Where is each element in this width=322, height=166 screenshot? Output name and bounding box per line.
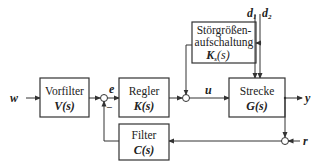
- stoergroessenaufschaltung-block: Störgrößen- aufschaltung Ks(s): [192, 22, 256, 63]
- tap-dot: [259, 42, 261, 44]
- control-summing-junction: [183, 95, 190, 102]
- stoer-tf-arg: (s): [217, 48, 230, 62]
- signal-d1-label: d1: [247, 6, 257, 21]
- signal-r-label: r: [303, 134, 308, 148]
- feedforward-line: [186, 45, 192, 95]
- regler-tf: K(s): [133, 99, 155, 113]
- vorfilter-label: Vorfilter: [45, 85, 84, 97]
- vorfilter-tf: V(s): [54, 99, 75, 113]
- filter-block: Filter C(s): [119, 124, 169, 160]
- signal-d2-label: d2: [262, 6, 272, 21]
- signal-u-label: u: [205, 83, 212, 97]
- signal-e-label: e: [109, 82, 115, 96]
- filter-tf: C(s): [134, 143, 155, 157]
- regler-block: Regler K(s): [119, 78, 169, 117]
- error-summing-junction: [101, 95, 108, 102]
- signal-w-label: w: [10, 91, 19, 105]
- strecke-label: Strecke: [240, 85, 274, 97]
- stoer-tf: Ks(s): [205, 48, 229, 63]
- minus-sign: −: [106, 103, 113, 112]
- signal-y-label: y: [303, 91, 311, 105]
- noise-summing-junction: [282, 138, 289, 145]
- regler-label: Regler: [129, 85, 160, 98]
- filter-label: Filter: [132, 129, 157, 141]
- vorfilter-block: Vorfilter V(s): [40, 78, 89, 117]
- strecke-tf: G(s): [246, 99, 267, 113]
- strecke-block: Strecke G(s): [229, 78, 285, 117]
- block-diagram: w Vorfilter V(s) − e Regler K(s) u Störg…: [0, 0, 322, 166]
